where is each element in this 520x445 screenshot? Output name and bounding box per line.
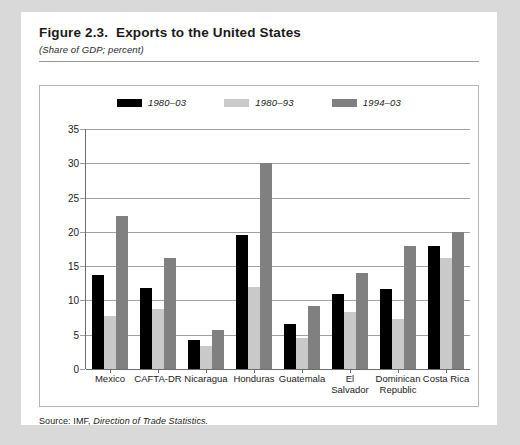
bar[interactable] (104, 316, 116, 369)
y-tick-label: 0 (73, 364, 79, 375)
x-axis-label: Mexico (86, 374, 134, 396)
y-tick-mark (80, 198, 85, 199)
legend-label: 1980–03 (148, 97, 186, 108)
bar[interactable] (92, 275, 104, 369)
bar-group (188, 129, 224, 369)
bar[interactable] (308, 306, 320, 369)
bar[interactable] (296, 338, 308, 369)
y-tick-mark (80, 163, 85, 164)
x-axis-label: El Salvador (326, 374, 374, 396)
x-axis-label: CAFTA-DR (134, 374, 182, 396)
x-axis-label: Nicaragua (182, 374, 230, 396)
bar-group (428, 129, 464, 369)
bar[interactable] (404, 246, 416, 369)
bar[interactable] (140, 288, 152, 369)
bar[interactable] (284, 324, 296, 369)
y-tick-mark (80, 129, 85, 130)
x-axis-labels: MexicoCAFTA-DRNicaraguaHondurasGuatemala… (86, 374, 470, 396)
plot-area: 05101520253035 (86, 129, 470, 369)
y-tick-label: 30 (68, 158, 79, 169)
bar[interactable] (428, 246, 440, 369)
legend-swatch-icon (224, 99, 249, 107)
source-note: Source: IMF, Direction of Trade Statisti… (39, 416, 208, 426)
bar[interactable] (116, 216, 128, 369)
bar[interactable] (260, 163, 272, 369)
y-tick-label: 35 (68, 124, 79, 135)
bars-layer (86, 129, 470, 369)
bar-group (140, 129, 176, 369)
bar-group (332, 129, 368, 369)
bar[interactable] (248, 287, 260, 369)
y-tick-label: 5 (73, 329, 79, 340)
figure-subtitle: (Share of GDP; percent) (39, 44, 479, 55)
figure-title: Figure 2.3. Exports to the United States (39, 25, 479, 41)
bar[interactable] (392, 319, 404, 369)
x-axis-label: Guatemala (278, 374, 326, 396)
y-tick-label: 10 (68, 295, 79, 306)
x-axis-label: Costa Rica (422, 374, 470, 396)
bar[interactable] (332, 294, 344, 369)
bar[interactable] (212, 330, 224, 369)
legend-entry-2[interactable]: 1980–93 (224, 97, 293, 108)
y-tick-label: 25 (68, 192, 79, 203)
header-divider (39, 61, 479, 62)
y-tick-label: 15 (68, 261, 79, 272)
chart-frame: 1980–031980–931994–03 05101520253035 Mex… (39, 85, 479, 407)
bar-group (92, 129, 128, 369)
bar[interactable] (380, 289, 392, 369)
x-axis-label: Honduras (230, 374, 278, 396)
bar[interactable] (440, 258, 452, 369)
y-tick-label: 20 (68, 226, 79, 237)
y-tick-mark (80, 266, 85, 267)
bar[interactable] (452, 232, 464, 369)
bar[interactable] (164, 258, 176, 369)
y-tick-mark (80, 300, 85, 301)
bar[interactable] (356, 273, 368, 369)
y-tick-mark (80, 369, 85, 370)
bar-group (284, 129, 320, 369)
legend-label: 1980–93 (255, 97, 293, 108)
bar-group (380, 129, 416, 369)
bar[interactable] (188, 340, 200, 369)
legend-swatch-icon (332, 99, 357, 107)
bar[interactable] (152, 309, 164, 369)
bar[interactable] (200, 346, 212, 369)
bar[interactable] (344, 312, 356, 369)
bar[interactable] (236, 235, 248, 369)
source-prefix: Source: IMF, (39, 416, 91, 426)
legend-label: 1994–03 (363, 97, 401, 108)
chart-legend: 1980–031980–931994–03 (40, 97, 478, 108)
legend-entry-3[interactable]: 1994–03 (332, 97, 401, 108)
legend-swatch-icon (117, 99, 142, 107)
bar-group (236, 129, 272, 369)
figure-header: Figure 2.3. Exports to the United States… (21, 12, 497, 62)
figure-panel: Figure 2.3. Exports to the United States… (21, 12, 497, 425)
source-publication: Direction of Trade Statistics. (93, 416, 208, 426)
x-axis-label: Dominican Republic (374, 374, 422, 396)
y-tick-mark (80, 335, 85, 336)
gridline-0 (86, 369, 470, 370)
legend-entry-1[interactable]: 1980–03 (117, 97, 186, 108)
y-tick-mark (80, 232, 85, 233)
